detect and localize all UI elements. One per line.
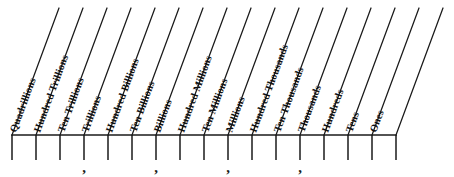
- column-label: Hundreds: [320, 88, 346, 134]
- column-label: Ones: [368, 108, 386, 133]
- period-comma-marks: ,,,,: [82, 159, 302, 175]
- period-comma: ,: [82, 159, 86, 175]
- column-label: Tens: [344, 110, 362, 133]
- column-label: Trillions: [80, 94, 104, 134]
- digit-tick-marks: [12, 135, 396, 160]
- column-label: Billions: [152, 98, 174, 134]
- period-comma: ,: [154, 159, 158, 175]
- column-divider-line: [396, 8, 443, 135]
- place-value-chart-svg: ,,,, QuadrillionsHundred TrillionsTen Tr…: [0, 0, 454, 177]
- place-value-chart: ,,,, QuadrillionsHundred TrillionsTen Tr…: [0, 0, 454, 177]
- period-comma: ,: [226, 159, 230, 175]
- column-label: Millions: [224, 95, 247, 134]
- column-label: Thousands: [296, 84, 323, 134]
- period-comma: ,: [298, 159, 302, 175]
